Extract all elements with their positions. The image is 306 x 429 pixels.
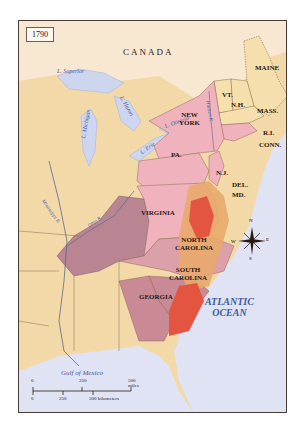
label-sc: SOUTH CAROLINA <box>169 266 207 282</box>
label-nc: NORTH CAROLINA <box>175 236 213 252</box>
scale-mile-500: 500 miles <box>128 378 141 388</box>
label-pa: PA. <box>171 151 182 159</box>
label-maine: MAINE <box>255 64 279 72</box>
label-nj: N.J. <box>216 169 228 177</box>
compass-e: E <box>266 237 269 242</box>
label-conn: CONN. <box>259 141 281 149</box>
label-ri: R.I. <box>263 129 274 137</box>
year-label: 1790 <box>26 27 54 42</box>
lake-superior-label: L. Superior <box>57 68 84 74</box>
label-vt: VT. <box>222 91 233 99</box>
scale-km-500: 500 kilometers <box>89 396 119 401</box>
label-virginia: VIRGINIA <box>141 209 175 217</box>
scale-km-250: 250 <box>59 396 67 401</box>
canada-label: CANADA <box>123 48 174 56</box>
label-ny: NEW YORK <box>179 111 200 127</box>
scale-bar: 0 250 500 miles 0 250 500 kilometers <box>31 376 141 406</box>
label-md: MD. <box>232 191 245 199</box>
atlantic-ocean-label: ATLANTIC OCEAN <box>205 296 254 318</box>
label-del: DEL. <box>232 181 248 189</box>
compass-rose: N S E W <box>234 221 270 261</box>
compass-w: W <box>231 239 236 244</box>
scale-mile-250: 250 <box>79 378 87 383</box>
label-nh: N.H. <box>231 101 245 109</box>
map-frame: 1790 CANADA L. Superior L. Michigan L. H… <box>18 20 287 413</box>
map-canvas <box>19 21 287 413</box>
scale-km-0: 0 <box>31 396 34 401</box>
label-georgia: GEORGIA <box>139 293 173 301</box>
compass-s: S <box>249 256 252 261</box>
label-mass: MASS. <box>257 107 278 115</box>
compass-icon <box>234 221 270 261</box>
scale-mile-0: 0 <box>31 378 34 383</box>
compass-n: N <box>249 218 253 223</box>
